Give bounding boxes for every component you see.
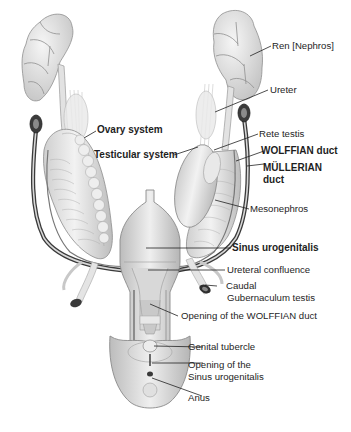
label-anus: Anus	[188, 392, 210, 403]
label-genital-tubercle: Genital tubercle	[188, 341, 255, 352]
label-opening-wolffian-duct: Opening of the WOLFFIAN duct	[181, 310, 317, 321]
label-gubernaculum-testis: Gubernaculum testis	[227, 292, 315, 303]
label-sinus-urogenitalis: Sinus urogenitalis	[232, 242, 319, 253]
label-ren: Ren [Nephros]	[272, 40, 334, 51]
label-mullerian-duct-1: MÜLLERIAN	[263, 162, 322, 173]
label-rete-testis: Rete testis	[259, 128, 304, 139]
label-ureteral-confluence: Ureteral confluence	[227, 264, 310, 275]
label-opening-sinus-1: Opening of the	[188, 359, 251, 370]
left-duct-funnel	[30, 115, 42, 133]
right-kidney	[213, 10, 262, 100]
right-gubernaculum	[186, 258, 222, 295]
label-ovary-system: Ovary system	[97, 124, 163, 135]
label-caudal: Caudal	[226, 280, 256, 291]
label-mullerian-duct-2: duct	[263, 174, 284, 185]
anatomy-illustration	[0, 0, 351, 432]
label-wolffian-duct: WOLFFIAN duct	[261, 145, 338, 156]
suspensory-strands	[70, 84, 213, 150]
right-ureter	[222, 86, 234, 150]
urogenital-diagram: Ren [Nephros] Ureter Ovary system Rete t…	[0, 0, 351, 432]
label-opening-sinus-2: Sinus urogenitalis	[188, 371, 264, 382]
left-gubernaculum	[64, 262, 98, 309]
label-ureter: Ureter	[270, 84, 297, 95]
label-testicular-system: Testicular system	[94, 149, 178, 160]
right-duct-funnel	[238, 104, 250, 122]
label-mesonephros: Mesonephros	[250, 203, 308, 214]
